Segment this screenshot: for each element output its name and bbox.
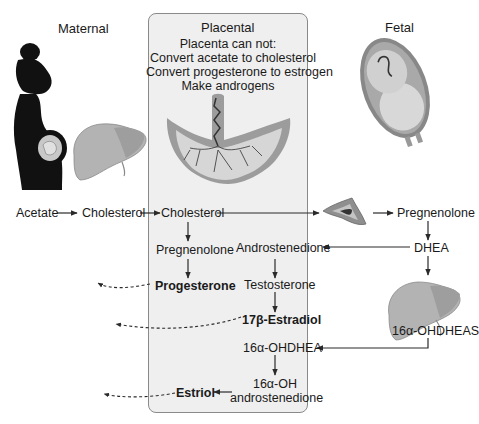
node-cholesterol-maternal: Cholesterol <box>82 206 145 220</box>
node-estriol: Estriol <box>176 386 215 400</box>
node-acetate: Acetate <box>16 206 58 220</box>
pregnant-woman-icon <box>14 43 67 190</box>
node-16a-oh-androstenedione-line1: 16α-OH <box>230 377 320 391</box>
fetus-icon <box>347 28 445 155</box>
node-16a-oh-androstenedione-line2: androstenedione <box>230 391 320 405</box>
node-pregnenolone-fetal: Pregnenolone <box>397 206 475 220</box>
node-pregnenolone-placental: Pregnenolone <box>156 243 234 257</box>
node-testosterone: Testosterone <box>244 278 316 292</box>
fetal-adrenal-icon <box>323 198 366 225</box>
node-16a-ohdheas: 16α-OHDHEAS <box>392 324 479 338</box>
node-16a-ohdhea: 16α-OHDHEA <box>243 341 322 355</box>
placenta-icon <box>167 94 290 184</box>
secretion-arrows <box>98 283 241 397</box>
node-dhea: DHEA <box>414 241 449 255</box>
pathway-arrows <box>57 213 428 392</box>
node-estradiol: 17β-Estradiol <box>242 313 321 327</box>
node-androstenedione: Androstenedione <box>236 241 331 255</box>
node-progesterone: Progesterone <box>155 279 236 293</box>
maternal-liver-icon <box>74 124 146 180</box>
node-cholesterol-placental: Cholesterol <box>161 206 224 220</box>
